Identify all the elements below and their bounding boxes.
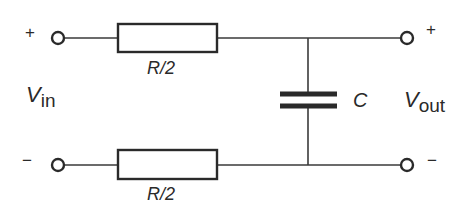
input-voltage-symbol: V bbox=[26, 82, 41, 107]
output-minus-sign: − bbox=[427, 152, 437, 169]
output-voltage-subscript: out bbox=[419, 95, 445, 116]
circuit-schematic bbox=[0, 0, 466, 210]
resistor-top bbox=[118, 24, 217, 52]
output-terminal-plus bbox=[401, 32, 413, 44]
resistor-bottom-label: R/2 bbox=[147, 185, 175, 203]
capacitor-label: C bbox=[353, 90, 367, 110]
input-terminal-minus bbox=[52, 159, 64, 171]
output-terminal-minus bbox=[401, 159, 413, 171]
input-minus-sign: − bbox=[22, 152, 32, 169]
output-voltage-label: Vout bbox=[404, 89, 445, 115]
output-plus-sign: + bbox=[426, 21, 436, 38]
input-voltage-subscript: in bbox=[41, 90, 56, 111]
resistor-top-label: R/2 bbox=[147, 59, 175, 77]
input-plus-sign: + bbox=[25, 24, 35, 41]
input-terminal-plus bbox=[52, 32, 64, 44]
output-voltage-symbol: V bbox=[404, 87, 419, 112]
input-voltage-label: Vin bbox=[26, 84, 55, 110]
resistor-bottom bbox=[118, 150, 217, 179]
